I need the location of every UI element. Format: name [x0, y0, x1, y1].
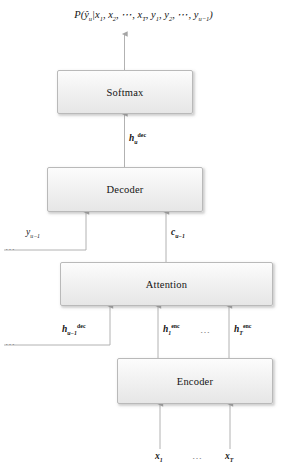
- block-encoder-label: Encoder: [177, 376, 213, 387]
- formula-suffix: ): [209, 9, 213, 20]
- ellipsis-decoder-feedback: ⋯: [5, 244, 16, 255]
- signal-x-1: x1: [155, 452, 163, 464]
- ellipsis-encoder-input: ⋯: [192, 453, 203, 464]
- signal-h-dec-u-prev: hu−1dec: [62, 324, 86, 337]
- block-softmax[interactable]: Softmax: [57, 70, 193, 114]
- architecture-diagram: P(ŷu|x1, x2, ⋯, xT, y1, y2, ⋯, yu−1): [0, 0, 287, 472]
- signal-h-dec-u-sub: u: [134, 139, 137, 145]
- signal-h-enc-T: hTenc: [234, 324, 251, 337]
- formula-dots-2: ⋯: [177, 9, 188, 20]
- signal-x-1-sub: 1: [160, 457, 163, 463]
- signal-c-u-prev-sub: u−1: [175, 233, 185, 239]
- ellipsis-attention-feedback: ⋯: [5, 339, 16, 350]
- signal-y-u-prev-sub: u−1: [30, 233, 40, 239]
- block-encoder[interactable]: Encoder: [117, 358, 273, 404]
- signal-y-u-prev: yu−1: [26, 228, 40, 240]
- signal-h-dec-u: hudec: [129, 133, 146, 146]
- signal-h-dec-u-prev-sub: u−1: [67, 330, 77, 336]
- wire-decoder-state-to-attention: [4, 306, 110, 345]
- formula-prefix: P(: [74, 9, 84, 20]
- signal-h-dec-u-sup: dec: [138, 132, 146, 138]
- formula-yu-sub: u−1: [198, 15, 209, 22]
- block-softmax-label: Softmax: [107, 87, 144, 98]
- block-attention-label: Attention: [146, 279, 187, 290]
- signal-h-enc-T-sub: T: [239, 330, 243, 336]
- output-probability-formula: P(ŷu|x1, x2, ⋯, xT, y1, y2, ⋯, yu−1): [0, 8, 287, 22]
- signal-h-enc-1: h1enc: [163, 324, 180, 337]
- signal-h-enc-T-sup: enc: [243, 323, 251, 329]
- signal-h-enc-1-sub: 1: [168, 330, 171, 336]
- block-attention[interactable]: Attention: [60, 262, 273, 306]
- wire-ylabel-to-decoder: [4, 212, 86, 250]
- signal-h-dec-u-prev-sup: dec: [77, 323, 85, 329]
- block-decoder[interactable]: Decoder: [47, 167, 203, 212]
- signal-x-T-sub: T: [230, 457, 234, 463]
- signal-x-T: xT: [225, 452, 233, 464]
- formula-dots-1: ⋯: [121, 9, 132, 20]
- block-decoder-label: Decoder: [107, 184, 144, 195]
- signal-c-u-prev: cu−1: [171, 228, 185, 240]
- ellipsis-encoder-hidden: ⋯: [200, 327, 211, 338]
- signal-h-enc-1-sup: enc: [171, 323, 179, 329]
